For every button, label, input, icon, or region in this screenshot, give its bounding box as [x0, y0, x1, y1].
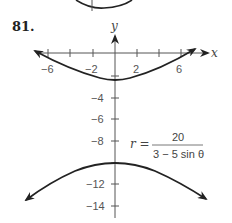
x-axis-label: x: [211, 46, 218, 60]
polar-graph: −6 −2 2 6 −4 −6 −8 −12 −14 x y r = 20 3 …: [0, 0, 232, 223]
x-tick-label: −6: [41, 63, 54, 75]
svg-text:r =: r =: [130, 137, 150, 151]
y-axis-label: y: [110, 19, 118, 33]
y-tick-label: −6: [91, 113, 104, 125]
y-tick-label: −4: [91, 92, 104, 104]
svg-text:3 − 5 sin θ: 3 − 5 sin θ: [153, 148, 204, 160]
x-tick-label: 6: [176, 63, 182, 75]
x-tick-label: 2: [133, 63, 139, 75]
y-tick-label: −12: [86, 178, 105, 190]
svg-text:20: 20: [172, 131, 184, 143]
previous-figure-fragment: [76, 0, 132, 11]
y-tick-label: −14: [86, 200, 105, 212]
equation-label: r = 20 3 − 5 sin θ: [130, 131, 204, 160]
y-tick-label: −8: [91, 135, 104, 147]
